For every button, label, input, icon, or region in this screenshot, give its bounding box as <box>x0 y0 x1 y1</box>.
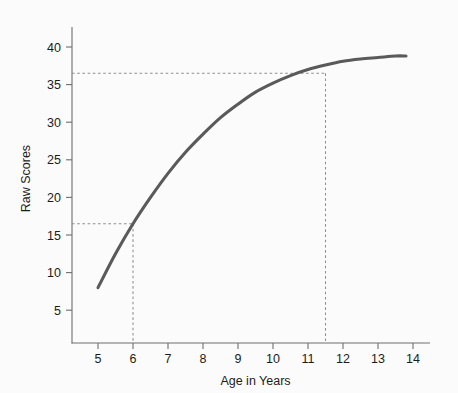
x-tick-label: 11 <box>302 352 315 366</box>
y-tick-label: 5 <box>54 304 61 318</box>
y-tick-label: 30 <box>47 116 61 130</box>
chart-canvas: 510152025303540 567891011121314 Raw Scor… <box>0 0 458 393</box>
x-tick-label: 7 <box>165 352 172 366</box>
x-tick-label: 12 <box>336 352 350 366</box>
y-tick-label: 25 <box>47 153 61 167</box>
y-axis-title: Raw Scores <box>19 145 33 212</box>
chart-background <box>0 0 458 393</box>
x-tick-label: 9 <box>235 352 242 366</box>
x-tick-label: 13 <box>371 352 385 366</box>
x-tick-label: 14 <box>406 352 420 366</box>
x-tick-label: 10 <box>266 352 280 366</box>
y-tick-label: 40 <box>47 41 61 55</box>
y-tick-label: 35 <box>47 78 61 92</box>
x-tick-label: 5 <box>95 352 102 366</box>
y-tick-label: 15 <box>47 229 61 243</box>
growth-curve-chart: 510152025303540 567891011121314 Raw Scor… <box>0 0 458 393</box>
x-tick-label: 6 <box>130 352 137 366</box>
y-tick-label: 10 <box>47 266 61 280</box>
x-tick-label: 8 <box>200 352 207 366</box>
y-tick-label: 20 <box>47 191 61 205</box>
x-axis-title: Age in Years <box>220 374 290 388</box>
